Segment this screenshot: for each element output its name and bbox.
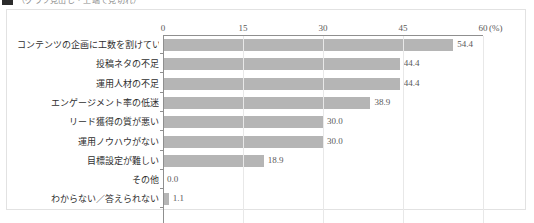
bar-value-label: 44.4: [404, 77, 420, 90]
bar-row: 38.9: [157, 94, 534, 113]
bar-value-label: 30.0: [327, 115, 343, 128]
category-label: エンゲージメント率の低迷: [17, 94, 159, 113]
bar-row: 54.4: [157, 36, 534, 55]
square-bullet-icon: [2, 0, 13, 5]
chart-heading-text: （グラフ見出し・上端で見切れ）: [17, 0, 142, 5]
category-label: 投稿ネタの不足: [17, 55, 159, 74]
bar-value-label: 30.0: [327, 135, 343, 148]
category-axis: コンテンツの企画に工数を割けていない投稿ネタの不足運用人材の不足エンゲージメント…: [17, 36, 159, 220]
x-axis-tick-label: 30: [319, 23, 328, 33]
gridline: [163, 36, 164, 220]
bar-row: 18.9: [157, 152, 534, 171]
category-label: 運用ノウハウがない: [17, 133, 159, 152]
bar-value-label: 44.4: [404, 57, 420, 70]
x-axis-tick-label: 15: [239, 23, 248, 33]
bar-value-label: 0.0: [167, 173, 178, 186]
category-label: 運用人材の不足: [17, 75, 159, 94]
bar-row: 1.1: [157, 190, 534, 209]
bar-row: 44.4: [157, 55, 534, 74]
bar[interactable]: [163, 39, 453, 51]
chart-container: コンテンツの企画に工数を割けていない投稿ネタの不足運用人材の不足エンゲージメント…: [6, 9, 526, 210]
bar[interactable]: [163, 58, 400, 70]
category-label: リード獲得の質が悪い: [17, 113, 159, 132]
x-axis-tick-label: 60: [479, 23, 488, 33]
gridline: [243, 36, 244, 220]
bar-value-label: 1.1: [173, 192, 184, 205]
gridline: [403, 36, 404, 220]
bar-row: 0.0: [157, 171, 534, 190]
category-label: 目標設定が難しい: [17, 152, 159, 171]
bar-row: 44.4: [157, 75, 534, 94]
bar[interactable]: [163, 97, 370, 109]
category-label: その他: [17, 171, 159, 190]
category-label: わからない／答えられない: [17, 190, 159, 209]
bar-value-label: 38.9: [374, 96, 390, 109]
x-axis-tick-label: 0: [161, 23, 166, 33]
chart-heading: （グラフ見出し・上端で見切れ）: [0, 0, 534, 6]
bar-row: 30.0: [157, 113, 534, 132]
bar-value-label: 18.9: [268, 154, 284, 167]
plot-area: 54.444.444.438.930.030.018.90.01.1 01530…: [157, 23, 534, 220]
gridline: [323, 36, 324, 220]
category-label: コンテンツの企画に工数を割けていない: [17, 36, 159, 55]
bar-row: 30.0: [157, 133, 534, 152]
gridline: [483, 36, 484, 220]
x-axis-unit-label: (%): [489, 23, 503, 33]
x-axis-tick-label: 45: [399, 23, 408, 33]
bar-rows: 54.444.444.438.930.030.018.90.01.1: [157, 36, 534, 220]
bar-value-label: 54.4: [457, 38, 473, 51]
bar[interactable]: [163, 155, 264, 167]
bar[interactable]: [163, 78, 400, 90]
